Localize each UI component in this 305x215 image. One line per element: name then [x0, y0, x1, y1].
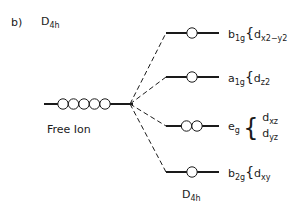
- orbital-dyz: dyz: [262, 127, 278, 140]
- label-b2g: b2g{dxy: [228, 165, 271, 182]
- label-b1g: b1g{dx2−y2: [228, 26, 287, 43]
- panel-label: b): [11, 17, 22, 28]
- free-ion-level: [44, 99, 133, 109]
- correlation-lines: [130, 33, 166, 172]
- level-a1g: [166, 72, 219, 82]
- level-b2g: [166, 167, 219, 177]
- orbital-dxz: dxz: [262, 111, 278, 124]
- free-ion-label: Free Ion: [47, 124, 91, 135]
- label-eg: eg { dxz dyz: [228, 112, 278, 144]
- bottom-d4h-label: D4h: [182, 189, 201, 203]
- level-eg: [166, 121, 219, 131]
- title-d4h: D4h: [41, 16, 60, 30]
- label-a1g: a1g{dz2: [228, 70, 270, 87]
- level-b1g: [166, 28, 219, 38]
